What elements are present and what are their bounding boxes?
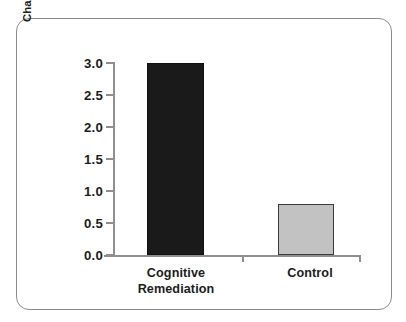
y-tick-label-0-0: 0.0 xyxy=(3,249,103,262)
x-axis-category-label-cognitive-remediation: Cognitive Remediation xyxy=(116,266,236,297)
category-label-line-1: Cognitive xyxy=(116,266,236,282)
y-axis-tick-1-5 xyxy=(106,158,113,160)
y-tick-label-0-5: 0.5 xyxy=(3,217,103,230)
y-tick-label-1-0: 1.0 xyxy=(3,185,103,198)
y-axis-tick-2-5 xyxy=(106,94,113,96)
bar-cognitive-remediation[interactable] xyxy=(147,63,204,255)
category-label-line-2: Remediation xyxy=(116,282,236,298)
x-axis-category-label-control: Control xyxy=(250,266,370,282)
y-axis-line xyxy=(113,62,115,256)
y-tick-label-1-5: 1.5 xyxy=(3,153,103,166)
y-axis-tick-labels: 3.0 2.5 2.0 1.5 1.0 0.5 0.0 xyxy=(0,0,103,322)
category-label-line-1: Control xyxy=(250,266,370,282)
x-axis-tick-end xyxy=(359,256,361,262)
y-tick-label-3-0: 3.0 xyxy=(3,57,103,70)
y-axis-tick-1-0 xyxy=(106,190,113,192)
y-axis-tick-0-0 xyxy=(106,254,113,256)
y-axis-tick-3-0 xyxy=(106,62,113,64)
bar-chart-plot-area: Change Score on a Measure of Social Perc… xyxy=(0,0,406,322)
bar-control[interactable] xyxy=(278,204,334,255)
y-tick-label-2-5: 2.5 xyxy=(3,89,103,102)
x-axis-tick-divider xyxy=(242,256,244,262)
y-tick-label-2-0: 2.0 xyxy=(3,121,103,134)
y-axis-tick-2-0 xyxy=(106,126,113,128)
x-axis-line xyxy=(104,255,361,257)
y-axis-tick-0-5 xyxy=(106,222,113,224)
